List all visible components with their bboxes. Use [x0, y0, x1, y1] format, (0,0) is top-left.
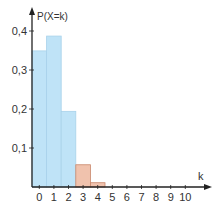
- x-tick-label: 4: [95, 191, 101, 203]
- y-axis-ticks: 0,10,20,30,4: [12, 25, 34, 154]
- x-tick-label: 2: [65, 191, 71, 203]
- y-axis-title: P(X=k): [37, 11, 68, 22]
- x-tick-label: 3: [80, 191, 86, 203]
- x-axis-arrow-icon: [204, 184, 212, 190]
- bar-k-0: [32, 51, 47, 187]
- y-tick-label: 0,2: [12, 103, 27, 115]
- bar-k-1: [47, 36, 62, 187]
- x-tick-label: 5: [109, 191, 115, 203]
- bar-k-3: [76, 165, 91, 187]
- x-tick-label: 0: [36, 191, 42, 203]
- x-tick-label: 7: [138, 191, 144, 203]
- x-tick-label: 1: [51, 191, 57, 203]
- y-tick-label: 0,1: [12, 142, 27, 154]
- x-tick-label: 9: [168, 191, 174, 203]
- probability-histogram: 0,10,20,30,4 012345678910 P(X=k) k: [0, 0, 223, 213]
- bar-k-2: [61, 111, 76, 187]
- x-tick-label: 8: [153, 191, 159, 203]
- x-tick-label: 6: [124, 191, 130, 203]
- x-tick-label: 10: [179, 191, 191, 203]
- y-tick-label: 0,4: [12, 25, 27, 37]
- y-axis-arrow-icon: [29, 7, 35, 15]
- y-tick-label: 0,3: [12, 64, 27, 76]
- bars: [32, 36, 105, 187]
- x-axis-title: k: [198, 170, 204, 182]
- x-axis-ticks: 012345678910: [36, 185, 191, 203]
